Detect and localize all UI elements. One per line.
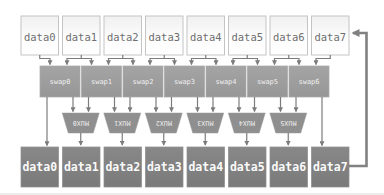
swap-label-1: swap1 (91, 78, 112, 86)
swap-mux-network-diagram: data0 data1 data2 data3 data4 data5 data… (0, 0, 384, 195)
data1-fork-arrows (67, 55, 92, 65)
top-data-label-6: data6 (273, 31, 305, 43)
data2-fork-arrows (109, 55, 134, 65)
mux-label-4: MUX4 (239, 119, 255, 127)
bottom-data-label-6: data6 (271, 160, 306, 174)
data4-fork-arrows (192, 55, 217, 65)
swap-label-2: swap2 (132, 78, 153, 86)
swaps-to-mux3-arrows (198, 97, 214, 112)
swap-label-3: swap3 (174, 78, 195, 86)
page-edge-divider (0, 193, 384, 195)
mux-label-3: MUX3 (197, 119, 213, 127)
data5-fork-arrows (233, 55, 258, 65)
bottom-data-label-2: data2 (105, 160, 140, 174)
data0-fork-arrow (40, 55, 50, 65)
mux-label-2: MUX2 (156, 119, 172, 127)
top-data-label-0: data0 (24, 31, 56, 43)
bottom-data-label-1: data1 (64, 160, 99, 174)
bottom-data-label-0: data0 (22, 160, 57, 174)
data6-fork-arrows (275, 55, 300, 65)
swaps-to-mux1-arrows (115, 97, 131, 112)
swaps-to-mux4-arrows (239, 97, 255, 112)
top-data-label-5: data5 (231, 31, 263, 43)
bottom-data-label-3: data3 (147, 160, 182, 174)
top-data-label-3: data3 (148, 31, 180, 43)
feedback-arrow (349, 33, 367, 166)
swaps-to-mux2-arrows (156, 97, 172, 112)
swaps-to-mux0-arrows (73, 97, 89, 112)
top-data-label-4: data4 (190, 31, 222, 43)
mux-label-0: MUX0 (73, 119, 89, 127)
swap-label-0: swap0 (49, 78, 70, 86)
data3-fork-arrows (150, 55, 175, 65)
bottom-data-label-4: data4 (188, 160, 223, 174)
top-data-label-7: data7 (314, 31, 346, 43)
bottom-data-label-7: data7 (313, 160, 348, 174)
swap-label-4: swap4 (215, 78, 236, 86)
data7-fork-arrow (316, 55, 330, 65)
swaps-to-mux5-arrows (281, 97, 297, 112)
top-data-label-1: data1 (65, 31, 97, 43)
mux-label-5: MUX5 (280, 119, 296, 127)
mux-label-1: MUX1 (114, 119, 130, 127)
swap-label-6: swap6 (298, 78, 319, 86)
diagram-canvas: data0 data1 data2 data3 data4 data5 data… (0, 0, 384, 195)
bottom-data-label-5: data5 (230, 160, 265, 174)
top-data-label-2: data2 (107, 31, 139, 43)
swap-label-5: swap5 (257, 78, 278, 86)
